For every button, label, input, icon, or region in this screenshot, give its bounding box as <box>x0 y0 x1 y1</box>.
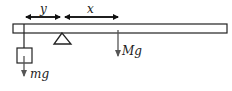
beam <box>13 24 227 33</box>
label-mg: mg <box>30 67 49 81</box>
label-x: x <box>87 2 94 16</box>
dimension-x: x <box>65 2 118 17</box>
lever-diagram: y x mg Mg <box>0 0 232 91</box>
label-y: y <box>39 2 47 16</box>
pivot-fulcrum <box>54 33 71 44</box>
weight-arrow-Mg: Mg <box>118 30 142 58</box>
dimension-y: y <box>26 2 60 17</box>
label-Mg: Mg <box>121 44 142 58</box>
